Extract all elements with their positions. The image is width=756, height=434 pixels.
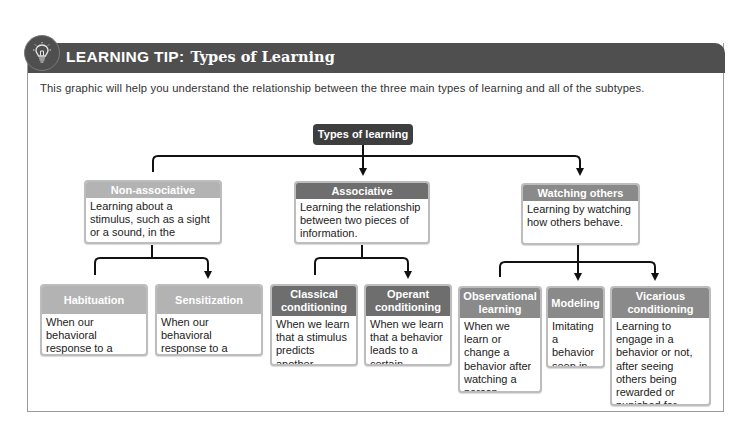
- subtype-description: When our behavioral response to a stimul…: [157, 314, 261, 356]
- subtype-title: Sensitization: [157, 286, 261, 314]
- category-description: Learning by watching how others behave.: [523, 201, 638, 232]
- subtype-title: Habituation: [42, 286, 146, 314]
- root-node-types-of-learning: Types of learning: [313, 124, 413, 145]
- subtype-description: Imitating a behavior seen in others.: [548, 318, 603, 368]
- category-watching-others: Watching others Learning by watching how…: [521, 183, 640, 245]
- category-associative: Associative Learning the relationship be…: [294, 181, 430, 244]
- subtype-title: Classical conditioning: [272, 286, 356, 316]
- subtype-description: When we learn that a behavior leads to a…: [366, 316, 450, 366]
- subtype-vicarious-conditioning: Vicarious conditioning Learning to engag…: [610, 286, 711, 406]
- subtype-description: When we learn that a stimulus predicts a…: [272, 316, 356, 366]
- subtype-title: Operant conditioning: [366, 286, 450, 316]
- subtype-description: Learning to engage in a behavior or not,…: [612, 318, 709, 406]
- subtype-title: Modeling: [548, 288, 603, 318]
- subtype-title: Observational learning: [460, 288, 540, 318]
- subtype-sensitization: Sensitization When our behavioral respon…: [155, 284, 263, 356]
- subtype-title: Vicarious conditioning: [612, 288, 709, 318]
- subtype-habituation: Habituation When our behavioral response…: [40, 284, 148, 356]
- subtype-observational-learning: Observational learning When we learn or …: [458, 286, 542, 393]
- category-title: Watching others: [523, 185, 638, 201]
- category-description: Learning about a stimulus, such as a sig…: [86, 198, 220, 244]
- subtype-description: When our behavioral response to a stimul…: [42, 314, 146, 356]
- subtype-description: When we learn or change a behavior after…: [460, 318, 540, 393]
- category-title: Non-associative: [86, 182, 220, 198]
- category-description: Learning the relationship between two pi…: [296, 199, 428, 244]
- category-title: Associative: [296, 183, 428, 199]
- subtype-modeling: Modeling Imitating a behavior seen in ot…: [546, 286, 605, 368]
- subtype-operant-conditioning: Operant conditioning When we learn that …: [364, 284, 452, 366]
- category-non-associative: Non-associative Learning about a stimulu…: [84, 180, 222, 244]
- subtype-classical-conditioning: Classical conditioning When we learn tha…: [270, 284, 358, 366]
